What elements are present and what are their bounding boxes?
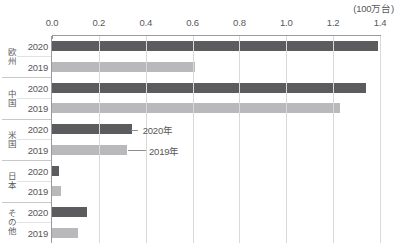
bar-欧州-2020: [52, 41, 378, 51]
bar-row: [0, 36, 400, 57]
annotation-leader-2019: [128, 150, 146, 151]
x-tick-label: 0.4: [139, 17, 152, 28]
x-tick-mark: [52, 36, 53, 39]
x-tick-label: 1.4: [374, 17, 387, 28]
x-tick-label: 0.8: [233, 17, 246, 28]
gridline: [99, 36, 100, 243]
annotation-label-2019: 2019年: [149, 144, 179, 158]
gridline: [380, 36, 381, 243]
bar-row: [0, 181, 400, 202]
bar-row: [0, 119, 400, 140]
x-tick-label: 0.2: [93, 17, 106, 28]
gridline: [333, 36, 334, 243]
bar-row: [0, 222, 400, 243]
bar-日本-2019: [52, 186, 61, 196]
annotation-label-2020: 2020年: [143, 123, 173, 137]
unit-caption: (100万台): [353, 1, 394, 15]
gridline: [146, 36, 147, 243]
bar-row: [0, 140, 400, 161]
gridline: [286, 36, 287, 243]
bar-欧州-2019: [52, 62, 195, 72]
bar-中国-2019: [52, 103, 340, 113]
bar-その他-2019: [52, 228, 78, 238]
bar-その他-2020: [52, 207, 87, 217]
bar-row: [0, 77, 400, 98]
gridline: [193, 36, 194, 243]
x-tick-label: 1.0: [280, 17, 293, 28]
bar-row: [0, 57, 400, 78]
bar-row: [0, 202, 400, 223]
bars-layer: [0, 36, 400, 243]
x-tick-label: 0.0: [46, 17, 59, 28]
bar-米国-2019: [52, 145, 127, 155]
x-tick-label: 0.6: [186, 17, 199, 28]
x-tick-label: 1.2: [327, 17, 340, 28]
gridline: [239, 36, 240, 243]
bar-日本-2020: [52, 166, 59, 176]
bar-row: [0, 98, 400, 119]
x-axis-tick-labels: 0.00.20.40.60.81.01.21.4: [0, 17, 400, 30]
bar-row: [0, 160, 400, 181]
horizontal-bar-chart: (100万台) 0.00.20.40.60.81.01.21.4 欧州20202…: [0, 0, 400, 245]
bar-米国-2020: [52, 124, 132, 134]
